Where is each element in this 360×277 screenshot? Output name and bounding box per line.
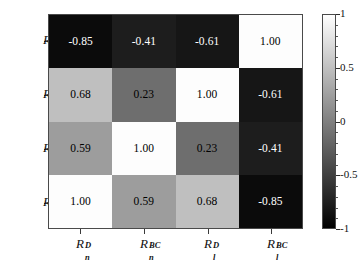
heatmap-cell-r2-c2: 0.23: [176, 122, 239, 175]
x-axis-label-3-base: R: [267, 236, 275, 251]
heatmap-cell-value: 1.00: [134, 142, 155, 154]
colorbar-minor-tick: [336, 25, 338, 26]
colorbar-minor-tick: [336, 197, 338, 198]
x-axis-label-2-sup: D: [213, 240, 219, 250]
heatmap-cell-r3-c0: 1.00: [49, 175, 112, 228]
colorbar-minor-tick: [336, 46, 338, 47]
heatmap-cell-value: 0.23: [197, 142, 218, 154]
x-tick-mark-3: [208, 229, 209, 234]
x-tick-mark-1: [80, 229, 81, 234]
colorbar-tick-label-3: -0.5: [340, 168, 357, 180]
heatmap-cell-value: 1.00: [197, 88, 218, 100]
x-tick-mark-2: [144, 229, 145, 234]
colorbar-minor-tick: [336, 165, 338, 166]
heatmap-cell-r1-c0: 0.68: [49, 68, 112, 121]
heatmap-cell-r0-c0: -0.85: [49, 15, 112, 68]
heatmap-cell-r0-c3: 1.00: [239, 15, 302, 68]
heatmap-cell-value: -0.41: [132, 35, 156, 47]
heatmap-cell-r2-c1: 1.00: [112, 122, 175, 175]
colorbar-minor-tick: [336, 79, 338, 80]
heatmap-cell-value: -0.85: [258, 195, 282, 207]
x-axis-label-3-sup: BC: [276, 240, 287, 250]
colorbar-minor-tick: [336, 111, 338, 112]
x-axis-label-2-base: R: [204, 236, 212, 251]
x-axis-label-1-base: R: [140, 236, 148, 251]
heatmap-cell-value: -0.41: [258, 142, 282, 154]
y-axis-label-2: RBCn: [5, 140, 51, 156]
colorbar-minor-tick: [336, 143, 338, 144]
colorbar-minor-tick: [336, 132, 338, 133]
heatmap-cell-value: -0.61: [195, 35, 219, 47]
x-axis-label-3-sub: l: [276, 252, 278, 262]
heatmap-cell-r2-c0: 0.59: [49, 122, 112, 175]
correlation-matrix-figure: RBCl RDl RBCn RDn -0.85-0.41-0.611.000.6…: [0, 0, 360, 277]
x-axis-label-2: RDl: [176, 236, 240, 252]
heatmap-cell-r1-c3: -0.61: [239, 68, 302, 121]
heatmap-cell-value: 0.59: [134, 195, 155, 207]
heatmap-cell-value: 0.59: [70, 142, 91, 154]
x-axis-label-1-sub: n: [149, 252, 154, 262]
x-axis-label-0-sub: n: [85, 252, 90, 262]
colorbar-minor-tick: [336, 57, 338, 58]
x-axis-label-0-sup: D: [85, 240, 91, 250]
heatmap-cell-r2-c3: -0.41: [239, 122, 302, 175]
colorbar-tick-label-4: -1: [340, 222, 349, 234]
colorbar-minor-tick: [336, 208, 338, 209]
x-tick-mark-4: [271, 229, 272, 234]
heatmap-grid: -0.85-0.41-0.611.000.680.231.00-0.610.59…: [48, 14, 303, 229]
heatmap-cell-value: -0.61: [258, 88, 282, 100]
colorbar-minor-tick: [336, 100, 338, 101]
colorbar-tick-label-1: 0.5: [340, 61, 354, 73]
heatmap-cell-r0-c2: -0.61: [176, 15, 239, 68]
colorbar-minor-tick: [336, 154, 338, 155]
heatmap-cell-value: 1.00: [260, 35, 281, 47]
colorbar: [322, 14, 336, 229]
heatmap-cell-r1-c2: 1.00: [176, 68, 239, 121]
x-axis-label-1: RBCn: [112, 236, 176, 252]
y-axis-label-0: RBCl: [5, 32, 51, 48]
colorbar-tick-label-0: 1: [340, 7, 346, 19]
x-axis-label-0-base: R: [76, 236, 84, 251]
heatmap-cell-r3-c3: -0.85: [239, 175, 302, 228]
heatmap-cell-r1-c1: 0.23: [112, 68, 175, 121]
x-axis-label-3: RBCl: [239, 236, 303, 252]
colorbar-minor-tick: [336, 36, 338, 37]
heatmap-cell-r0-c1: -0.41: [112, 15, 175, 68]
x-axis-label-0: RDn: [48, 236, 112, 252]
heatmap-cell-r3-c2: 0.68: [176, 175, 239, 228]
colorbar-minor-tick: [336, 186, 338, 187]
x-axis-label-1-sup: BC: [149, 240, 160, 250]
heatmap-cell-value: 0.23: [134, 88, 155, 100]
y-axis-label-3: RDn: [5, 194, 51, 210]
heatmap-cell-value: 0.68: [70, 88, 91, 100]
heatmap-cell-value: -0.85: [68, 35, 92, 47]
heatmap-cell-value: 0.68: [197, 195, 218, 207]
colorbar-minor-tick: [336, 89, 338, 90]
x-axis-label-2-sub: l: [213, 252, 215, 262]
y-axis-label-1: RDl: [5, 86, 51, 102]
colorbar-tick-label-2: 0: [340, 115, 346, 127]
heatmap-cell-r3-c1: 0.59: [112, 175, 175, 228]
colorbar-minor-tick: [336, 218, 338, 219]
heatmap-cell-value: 1.00: [70, 195, 91, 207]
